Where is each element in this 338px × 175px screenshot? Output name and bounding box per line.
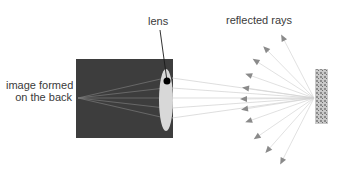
image-label-line1: image formed bbox=[6, 79, 72, 91]
reflected-rays-label: reflected rays bbox=[226, 14, 292, 26]
reflected-rays bbox=[244, 38, 314, 161]
arrowheads bbox=[240, 33, 287, 166]
lens-pointer-dot bbox=[164, 78, 171, 85]
lens-label: lens bbox=[148, 15, 168, 27]
object bbox=[315, 69, 328, 124]
image-label-line2: on the back bbox=[6, 91, 72, 103]
camera-body bbox=[76, 59, 173, 138]
image-label: image formed on the back bbox=[6, 79, 72, 103]
